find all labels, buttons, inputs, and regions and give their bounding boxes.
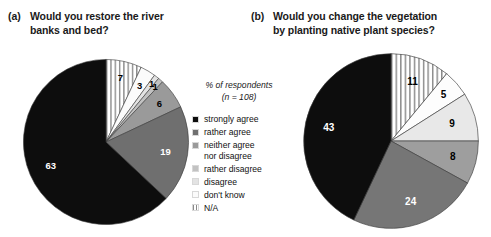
pie-a-svg: 731161963	[20, 56, 192, 228]
panel-b-title-line1: Would you change the vegetation	[273, 10, 486, 24]
legend-swatch-icon	[192, 116, 199, 123]
pie-b-svg: 115982443	[300, 50, 482, 232]
legend-item: neither agree nor disagree	[192, 140, 292, 161]
legend-item: don't know	[192, 190, 292, 201]
pie-slice-value-label: 63	[46, 160, 57, 171]
pie-slice-value-label: 24	[405, 196, 417, 207]
legend-swatch-icon	[192, 129, 199, 136]
legend-swatch-icon	[192, 204, 199, 211]
legend: % of respondents (n = 108) strongly agre…	[186, 80, 292, 216]
panel-a-title-line1: Would you restore the river	[30, 10, 208, 24]
legend-header-line1: % of respondents	[206, 80, 273, 90]
legend-swatch-icon	[192, 142, 199, 149]
legend-item-label: neither agree nor disagree	[204, 140, 255, 161]
panel-b-title: (b) Would you change the vegetation by p…	[251, 10, 486, 37]
pie-chart-b: 115982443	[300, 50, 482, 232]
pie-slice-value-label: 1	[152, 81, 157, 92]
legend-item-label: N/A	[204, 203, 218, 214]
pie-slice-value-label: 5	[441, 89, 447, 100]
legend-item-label: rather agree	[204, 127, 251, 138]
legend-item: disagree	[192, 177, 292, 188]
legend-item-label: rather disagree	[204, 164, 262, 175]
panel-b-title-line2: by planting native plant species?	[273, 24, 486, 38]
pie-slice-value-label: 19	[160, 146, 171, 157]
legend-item-label: disagree	[204, 177, 237, 188]
legend-swatch-icon	[192, 191, 199, 198]
legend-item: N/A	[192, 203, 292, 214]
pie-b-slices	[304, 54, 479, 229]
panel-b-tag: (b)	[251, 10, 264, 24]
pie-slice-value-label: 3	[137, 80, 142, 91]
pie-chart-a: 731161963	[20, 56, 192, 228]
legend-item-label: strongly agree	[204, 114, 258, 125]
legend-item-label: don't know	[204, 190, 245, 201]
pie-slice-value-label: 43	[323, 122, 335, 133]
legend-item: strongly agree	[192, 114, 292, 125]
panel-a-title-line2: banks and bed?	[30, 24, 208, 38]
legend-header: % of respondents (n = 108)	[186, 80, 292, 103]
pie-slice-value-label: 8	[450, 151, 456, 162]
legend-header-line2: (n = 108)	[186, 92, 292, 104]
legend-item: rather agree	[192, 127, 292, 138]
pie-a-slices	[23, 59, 188, 224]
legend-swatch-icon	[192, 165, 199, 172]
panel-a-title: (a) Would you restore the river banks an…	[8, 10, 208, 37]
pie-slice-value-label: 7	[118, 72, 123, 83]
legend-items: strongly agreerather agreeneither agree …	[186, 114, 292, 213]
figure-two-pie-charts: (a) Would you restore the river banks an…	[0, 0, 491, 237]
pie-slice-value-label: 6	[157, 98, 162, 109]
legend-swatch-icon	[192, 178, 199, 185]
pie-slice-value-label: 9	[449, 118, 455, 129]
panel-a-tag: (a)	[8, 10, 21, 24]
pie-slice-value-label: 11	[407, 76, 418, 87]
legend-item: rather disagree	[192, 164, 292, 175]
